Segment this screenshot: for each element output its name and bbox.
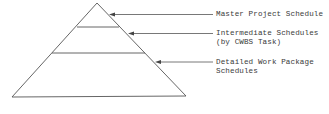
- arrow-master: [109, 13, 213, 17]
- arrow-detailed: [155, 60, 213, 64]
- label-line: Schedules: [216, 67, 314, 76]
- label-line: Intermediate Schedules: [216, 29, 318, 38]
- arrow-intermediate: [128, 32, 213, 36]
- label-intermediate-schedules: Intermediate Schedules (by CWBS Task): [216, 29, 318, 47]
- label-line: (by CWBS Task): [216, 38, 318, 47]
- label-master-project-schedule: Master Project Schedule: [216, 10, 323, 19]
- label-detailed-work-package: Detailed Work Package Schedules: [216, 58, 314, 76]
- label-line: Detailed Work Package: [216, 58, 314, 67]
- label-line: Master Project Schedule: [216, 10, 323, 19]
- pyramid-outline: [12, 3, 186, 97]
